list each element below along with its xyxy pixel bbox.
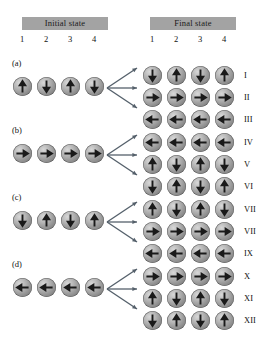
spin-cell [140,110,164,129]
state-numeral-label: IV [244,131,253,153]
spin-cell [164,110,188,129]
spin-left-icon [215,133,234,152]
spin-cell [140,133,164,152]
spin-cell [212,88,236,107]
column-number: 1 [10,33,34,45]
final-column-numbers: 1 2 3 4 [140,33,236,45]
state-numeral-label: IX [244,242,253,264]
spin-cell [34,77,58,96]
spin-cell [82,211,106,230]
spin-cell [164,66,188,85]
column-number: 4 [82,33,106,45]
spin-down-icon [143,177,162,196]
spin-right-icon [191,267,210,286]
spin-cell [188,66,212,85]
spin-right-icon [167,267,186,286]
panel-label: (c) [12,192,21,202]
state-numeral-label: X [244,265,250,287]
final-state-row: VII [140,220,236,242]
spin-cell [164,133,188,152]
spin-down-icon [191,66,210,85]
spin-left-icon [215,110,234,129]
spin-cell [34,211,58,230]
spin-cell [164,289,188,308]
final-state-row: IV [140,131,236,153]
spin-left-icon [143,133,162,152]
final-state-row: VII [140,198,236,220]
spin-cell [82,144,106,163]
spin-left-icon [167,110,186,129]
spin-cell [140,289,164,308]
column-number: 2 [34,33,58,45]
initial-state-row [10,75,106,97]
spin-cell [140,155,164,174]
initial-state-row [10,142,106,164]
spin-cell [188,88,212,107]
state-numeral-label: VII [244,198,256,220]
spin-cell [58,211,82,230]
spin-left-icon [167,133,186,152]
state-numeral-label: V [244,153,250,175]
spin-right-icon [191,88,210,107]
state-numeral-label: I [244,64,247,86]
spin-cell [188,311,212,330]
spin-cell [164,88,188,107]
spin-cell [34,278,58,297]
spin-cell [188,267,212,286]
spin-right-icon [167,88,186,107]
spin-cell [212,289,236,308]
spin-cell [188,222,212,241]
spin-cell [164,222,188,241]
spin-cell [188,289,212,308]
spin-down-icon [85,77,104,96]
spin-cell [58,77,82,96]
spin-up-icon [167,177,186,196]
spin-cell [212,66,236,85]
final-state-row: V [140,153,236,175]
spin-cell [212,177,236,196]
spin-down-icon [13,211,32,230]
spin-cell [10,144,34,163]
state-numeral-label: XII [244,309,256,331]
branching-arrows [106,267,142,311]
spin-right-icon [167,222,186,241]
initial-state-row [10,276,106,298]
spin-up-icon [13,77,32,96]
spin-left-icon [85,278,104,297]
spin-left-icon [37,278,56,297]
spin-cell [188,177,212,196]
spin-cell [10,278,34,297]
spin-cell [140,200,164,219]
spin-down-icon [167,155,186,174]
spin-right-icon [13,144,32,163]
initial-state-row [10,209,106,231]
spin-cell [164,155,188,174]
spin-left-icon [191,110,210,129]
spin-cell [82,278,106,297]
spin-right-icon [143,88,162,107]
final-state-row: IX [140,242,236,264]
spin-left-icon [167,244,186,263]
spin-down-icon [215,200,234,219]
spin-left-icon [215,244,234,263]
spin-cell [188,133,212,152]
branching-arrows [106,200,142,244]
column-number: 4 [212,33,236,45]
spin-cell [212,133,236,152]
final-state-rows: IVVVI [140,131,236,197]
spin-left-icon [191,244,210,263]
spin-down-icon [143,311,162,330]
column-number: 1 [140,33,164,45]
spin-up-icon [37,211,56,230]
spin-cell [10,77,34,96]
state-numeral-label: VI [244,175,253,197]
spin-cell [212,110,236,129]
column-number: 2 [164,33,188,45]
final-state-row: II [140,86,236,108]
final-state-rows: IIIIII [140,64,236,130]
spin-down-icon [191,311,210,330]
spin-down-icon [167,200,186,219]
spin-right-icon [215,88,234,107]
state-numeral-label: III [244,108,253,130]
spin-cell [212,222,236,241]
